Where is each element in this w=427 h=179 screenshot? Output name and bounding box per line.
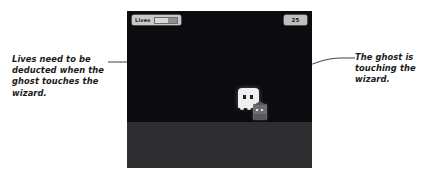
wizard-robe [254, 114, 266, 120]
starry-sky-background [127, 11, 312, 122]
score-value: 25 [291, 17, 299, 23]
annotation-right-text: The ghost is touching the wizard. [355, 52, 425, 86]
lives-bar-fill [155, 18, 169, 23]
ghost-eye-left-icon [243, 95, 246, 99]
ghost-foot-icon [240, 108, 244, 110]
ghost-eye-right-icon [250, 95, 253, 99]
lives-label: Lives [135, 17, 151, 23]
lives-bar [154, 17, 178, 24]
score-hud-badge: 25 [284, 15, 307, 25]
annotation-left-text: Lives need to be deducted when the ghost… [12, 54, 120, 99]
ground-platform [127, 122, 312, 168]
wizard-hat-icon [254, 101, 266, 105]
ghost-foot-icon [247, 108, 251, 110]
game-canvas[interactable]: Lives 25 [127, 11, 312, 168]
wizard-eye-left-icon [256, 109, 258, 111]
wizard-sprite[interactable] [253, 104, 267, 120]
wizard-eye-right-icon [261, 109, 263, 111]
lives-hud-badge: Lives [132, 15, 181, 25]
